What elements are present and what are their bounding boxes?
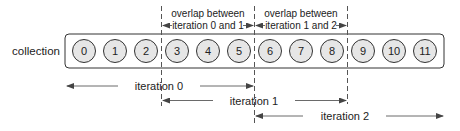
element-0: 0 (73, 40, 96, 63)
element-8: 8 (321, 40, 344, 63)
element-2: 2 (135, 40, 158, 63)
svg-text:9: 9 (360, 45, 366, 57)
svg-text:iteration 0 and 1: iteration 0 and 1 (172, 20, 244, 31)
svg-text:10: 10 (388, 45, 400, 57)
sliding-window-diagram: collection 0 1 2 3 4 5 6 7 8 9 10 11 ove… (0, 0, 460, 131)
svg-text:iteration 1: iteration 1 (230, 95, 278, 107)
svg-text:iteration 1 and 2: iteration 1 and 2 (265, 20, 337, 31)
svg-text:7: 7 (298, 45, 304, 57)
svg-text:2: 2 (143, 45, 149, 57)
svg-text:overlap between: overlap between (171, 8, 244, 19)
element-5: 5 (228, 40, 251, 63)
element-9: 9 (352, 40, 375, 63)
svg-text:iteration 2: iteration 2 (321, 110, 369, 122)
iteration-1-span: iteration 1 (163, 95, 346, 107)
svg-text:8: 8 (329, 45, 335, 57)
iteration-0-span: iteration 0 (67, 80, 253, 92)
overlap-label-1-2: overlap between iteration 1 and 2 (256, 8, 346, 31)
svg-text:5: 5 (236, 45, 242, 57)
svg-text:0: 0 (81, 45, 87, 57)
element-1: 1 (104, 40, 127, 63)
overlap-label-0-1: overlap between iteration 0 and 1 (163, 8, 253, 31)
svg-text:iteration 0: iteration 0 (135, 80, 183, 92)
svg-text:4: 4 (205, 45, 211, 57)
element-7: 7 (290, 40, 313, 63)
element-10: 10 (383, 40, 406, 63)
element-3: 3 (166, 40, 189, 63)
collection-label: collection (12, 45, 60, 57)
element-6: 6 (259, 40, 282, 63)
svg-text:1: 1 (112, 45, 118, 57)
svg-text:overlap between: overlap between (264, 8, 337, 19)
element-11: 11 (414, 40, 437, 63)
svg-text:6: 6 (267, 45, 273, 57)
svg-text:3: 3 (174, 45, 180, 57)
svg-text:11: 11 (419, 45, 430, 57)
iteration-2-span: iteration 2 (256, 110, 443, 122)
element-4: 4 (197, 40, 220, 63)
